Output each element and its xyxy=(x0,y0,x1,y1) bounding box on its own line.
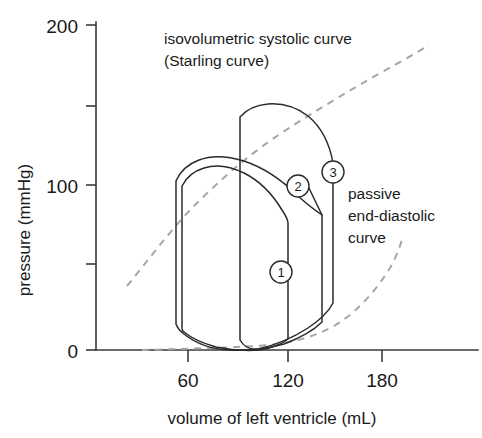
y-tick-label-100: 100 xyxy=(46,176,78,197)
tick-label-group: 200 100 0 60 120 180 xyxy=(46,16,398,391)
x-axis-title: volume of left ventricle (mL) xyxy=(168,409,377,428)
y-axis-title: pressure (mmHg) xyxy=(15,164,34,296)
annotation-starling-line2: (Starling curve) xyxy=(164,52,269,69)
pv-loop-1 xyxy=(182,166,288,350)
annotation-passive-line2: end-diastolic xyxy=(348,207,435,224)
y-tick-label-0: 0 xyxy=(67,341,78,362)
x-tick-label-180: 180 xyxy=(366,370,398,391)
annotation-passive-line3: curve xyxy=(348,229,386,246)
pressure-volume-loop-figure: 200 100 0 60 120 180 pressure (mmHg) vol… xyxy=(0,0,482,438)
passive-end-diastolic-dashed-curve xyxy=(142,237,403,350)
pv-loop-3 xyxy=(240,104,333,349)
marker-label-2: 2 xyxy=(294,179,301,194)
x-tick-label-120: 120 xyxy=(272,370,304,391)
annotation-passive-line1: passive xyxy=(348,185,401,202)
marker-label-1: 1 xyxy=(277,265,284,280)
annotation-starling-line1: isovolumetric systolic curve xyxy=(164,30,352,47)
isovolumetric-systolic-dashed-curve xyxy=(127,45,429,286)
y-tick-label-200: 200 xyxy=(46,16,78,37)
marker-label-3: 3 xyxy=(329,165,336,180)
x-tick-label-60: 60 xyxy=(177,370,198,391)
chart-canvas: 200 100 0 60 120 180 pressure (mmHg) vol… xyxy=(0,0,482,438)
axes-group xyxy=(86,22,478,362)
